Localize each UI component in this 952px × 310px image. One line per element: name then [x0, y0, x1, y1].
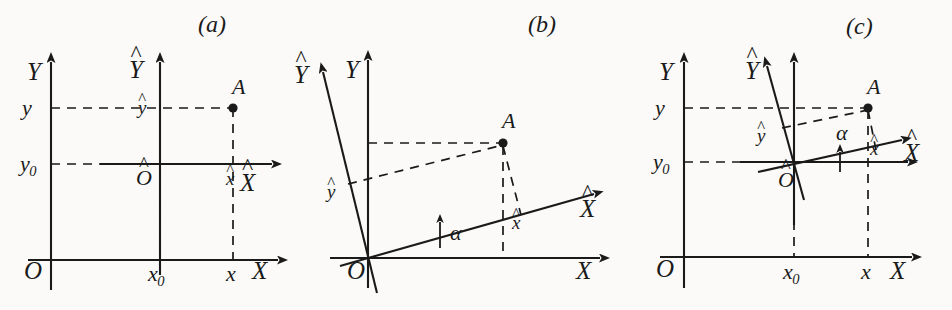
panel-b-guide-A-to-x-hat-axis [503, 146, 521, 215]
panel-c-tick-y-label: y [655, 97, 665, 119]
panel-a-axis-y-label: Y [27, 59, 41, 84]
panel-a-tick-x-label: x [226, 263, 236, 285]
coordinate-transform-figure: (a) Y X ^Y ^X O ^O A y y0 x0 x ^x ^y (b)… [0, 0, 952, 310]
panel-c-tag: (c) [846, 14, 873, 38]
panel-a-tick-y0-label: y0 [20, 153, 37, 178]
panel-c-axis-y-label: Y [659, 59, 673, 84]
panel-c-tick-x0-label: x0 [783, 261, 800, 286]
figure-vector-graphics [0, 0, 952, 310]
panel-b-angle-alpha-label: α [450, 222, 462, 244]
panel-b-coord-x-hat-label: ^x [512, 213, 520, 232]
panel-c-coord-x-hat-label: ^x [870, 139, 878, 158]
panel-a-axis-x-hat-label: ^X [240, 170, 255, 195]
panel-b-axis-y-hat-label: ^Y [294, 62, 308, 87]
panel-b-point-A-label: A [502, 110, 515, 132]
panel-c-point-A [863, 103, 872, 112]
panel-c-point-A-label: A [867, 76, 880, 98]
panel-b-guide-y-hat-to-A [348, 145, 503, 184]
panel-a-origin-O-hat-label: ^O [136, 167, 152, 189]
panel-a-point-A-label: A [232, 76, 245, 98]
panel-b-point-A [498, 138, 507, 147]
panel-a-tag: (a) [198, 12, 226, 36]
panel-b-axis-x-hat-label: ^X [580, 196, 595, 221]
panel-a-axis-y-hat-label: ^Y [129, 57, 143, 82]
panel-c-axis-y-hat-label: ^Y [745, 58, 759, 83]
panel-a-tick-y-label: y [22, 97, 32, 119]
panel-a-origin-O-label: O [24, 258, 42, 283]
panel-a-tick-x0-label: x0 [148, 263, 165, 288]
panel-a-coord-x-hat-label: ^x [226, 169, 234, 188]
panel-c-tick-x-label: x [861, 261, 871, 283]
panel-c-axis-x-hat-label: ^X [904, 140, 919, 165]
panel-c-origin-O-label: O [656, 256, 674, 281]
panel-a-point-A [228, 103, 237, 112]
panel-b-axis-x-hat-line [340, 194, 594, 266]
panel-b-tag: (b) [528, 12, 556, 36]
panel-b-axis-y-label: Y [345, 57, 359, 82]
panel-b-axis-x-label: X [576, 258, 591, 283]
panel-c-tick-y0-label: y0 [653, 151, 670, 176]
panel-b-origin-O-label: O [347, 258, 365, 283]
panel-c-angle-alpha-label: α [836, 122, 848, 144]
panel-c-axis-x-label: X [890, 258, 905, 283]
panel-c-origin-O-hat-label: ^O [778, 169, 794, 191]
panel-a-coord-y-hat-label: ^y [138, 98, 146, 117]
panel-a-axis-x-label: X [252, 258, 267, 283]
panel-c-coord-y-hat-label: ^y [757, 126, 765, 145]
panel-b-coord-y-hat-label: ^y [327, 182, 335, 201]
